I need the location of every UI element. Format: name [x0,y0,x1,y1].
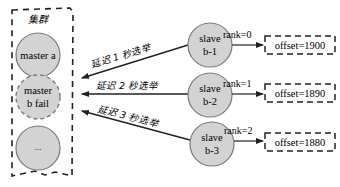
slave-b3-line1: slave [201,132,223,143]
failover-election-diagram: 集群 master a master b fail ... 延迟 1 秒选举 延… [0,0,340,187]
master-b-label-line2: b fail [27,98,49,109]
master-a-label: master a [20,50,56,61]
slave-b3-line2: b-3 [205,145,219,156]
rank-label-1: rank=0 [223,29,251,40]
delay-label-3: 延迟 3 秒选举 [97,103,161,129]
offset-box-3: offset=1880 [265,133,335,151]
slave-b2-line1: slave [199,83,221,94]
rank-label-2: rank=1 [223,78,251,89]
delay-label-2: 延迟 2 秒选举 [96,80,159,91]
offset-box-1: offset=1900 [265,36,335,54]
other-master-label: ... [35,142,42,152]
offset-box-2: offset=1890 [265,84,335,102]
master-b-label-line1: master [24,85,52,96]
offset-value-1: offset=1900 [275,40,326,51]
master-b-fail-node: master b fail [16,75,60,119]
master-a-node: master a [16,33,60,77]
offset-value-2: offset=1890 [275,88,326,99]
slave-b1-line2: b-1 [203,46,217,57]
other-master-node: ... [16,126,60,170]
offset-value-3: offset=1880 [275,137,326,148]
slave-b1-line1: slave [199,33,221,44]
rank-label-3: rank=2 [224,125,252,136]
cluster-title: 集群 [28,14,50,25]
slave-b2-line2: b-2 [203,96,217,107]
